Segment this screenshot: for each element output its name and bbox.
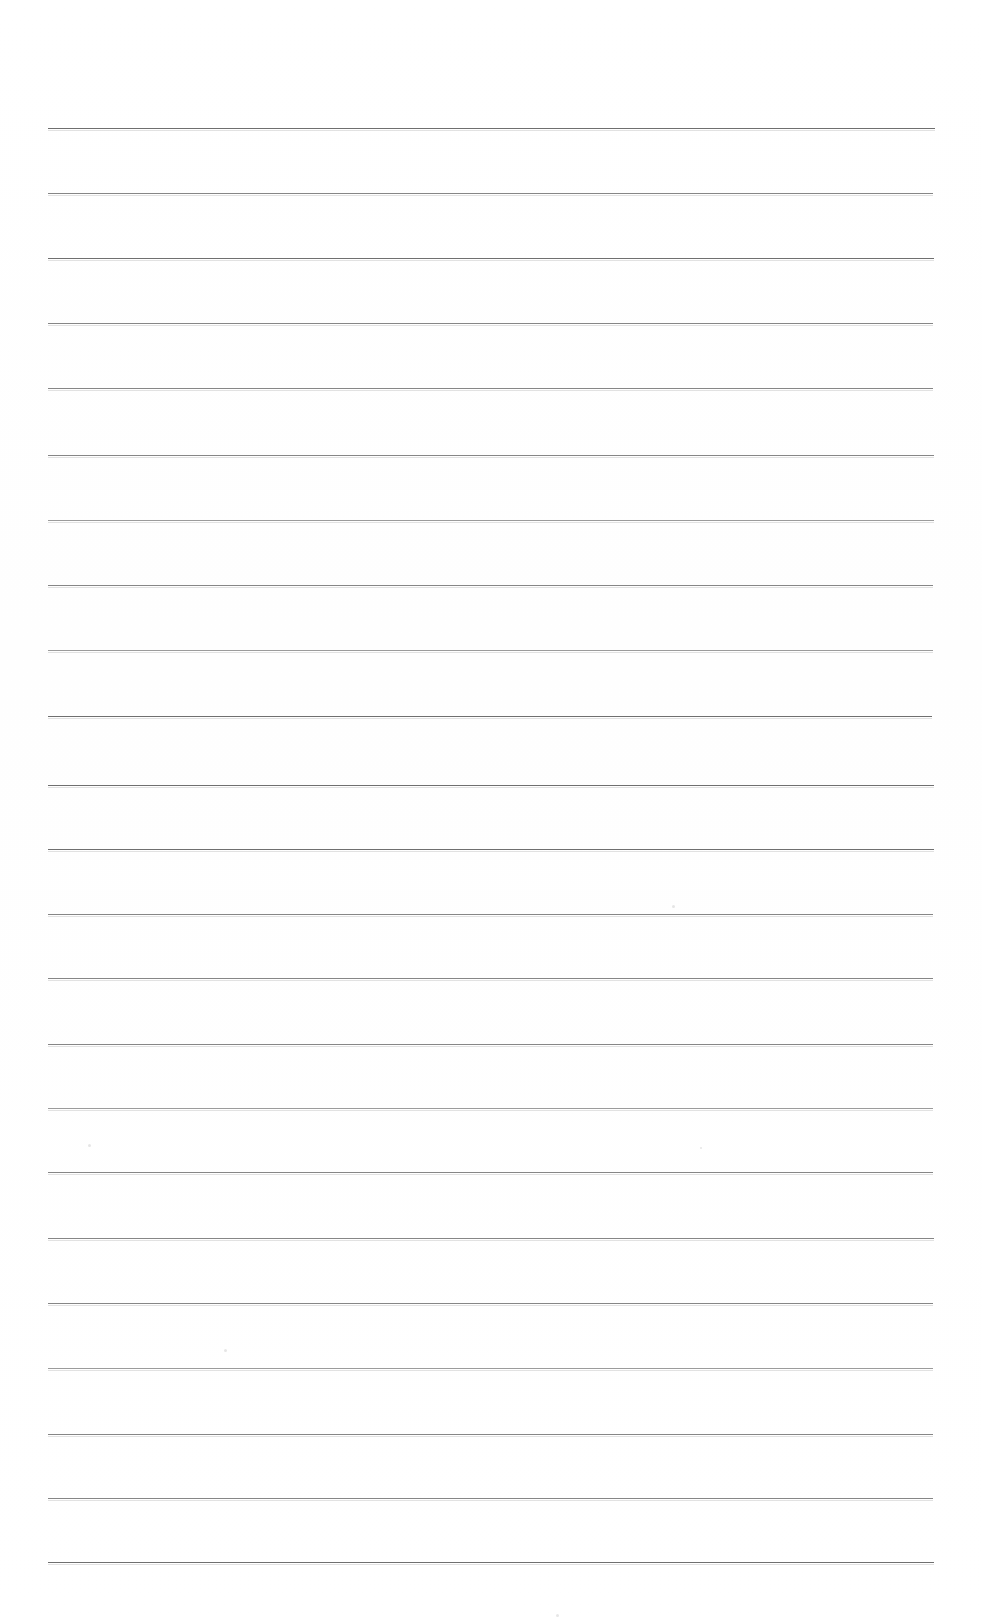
ruled-line bbox=[48, 1238, 934, 1239]
ruled-line bbox=[48, 1562, 934, 1563]
scanned-page bbox=[0, 0, 982, 1623]
ruled-line bbox=[48, 258, 934, 259]
scan-speck bbox=[556, 1614, 559, 1617]
scan-speck bbox=[224, 1349, 227, 1352]
ruled-line bbox=[48, 1368, 933, 1369]
ruled-line bbox=[48, 323, 933, 324]
ruled-line bbox=[48, 785, 934, 786]
scan-speck bbox=[672, 905, 675, 908]
ruled-line bbox=[48, 1434, 933, 1435]
ruled-line bbox=[48, 1303, 933, 1304]
ruled-line bbox=[48, 849, 934, 850]
scan-speck bbox=[88, 1144, 91, 1147]
ruled-line bbox=[48, 716, 932, 717]
scan-speck bbox=[700, 1147, 702, 1149]
ruled-line bbox=[48, 128, 935, 129]
ruled-line bbox=[48, 650, 933, 651]
ruled-line bbox=[48, 978, 933, 979]
ruled-line bbox=[48, 1172, 933, 1173]
ruled-line bbox=[48, 193, 933, 194]
ruled-line bbox=[48, 585, 933, 586]
ruled-line bbox=[48, 520, 934, 521]
ruled-line bbox=[48, 1498, 933, 1499]
ruled-line-layer bbox=[0, 0, 982, 1623]
ruled-line bbox=[48, 1044, 933, 1045]
ruled-line bbox=[48, 1108, 933, 1109]
ruled-line bbox=[48, 388, 933, 389]
ruled-line bbox=[48, 914, 933, 915]
ruled-line bbox=[48, 455, 934, 456]
